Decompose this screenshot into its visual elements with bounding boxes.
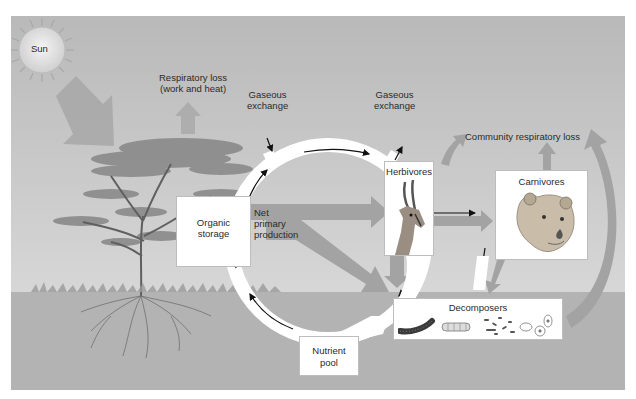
herbivore-respiration-arrow bbox=[441, 134, 467, 166]
gaseous-exchange-in-label: Gaseous exchange bbox=[247, 89, 288, 111]
respiratory-loss-arrow bbox=[175, 102, 201, 134]
carnivore-respiration-arrow bbox=[538, 142, 556, 172]
gazelle-icon bbox=[391, 180, 429, 255]
millipede-icon bbox=[400, 321, 432, 332]
larva-icon bbox=[442, 323, 470, 331]
solar-energy-arrow bbox=[56, 76, 114, 146]
ecosystem-diagram: Sun Respiratory loss (work and heat) Gas… bbox=[11, 16, 625, 390]
sun-label: Sun bbox=[31, 43, 48, 54]
fungi-cells-icon bbox=[520, 315, 552, 336]
net-primary-production-label: Net primary production bbox=[254, 207, 298, 240]
nutrient-pool-node: Nutrient pool bbox=[299, 336, 359, 376]
decomposers-node: Decomposers bbox=[393, 298, 563, 340]
carnivore-to-decomposers-flow-arrow bbox=[485, 260, 505, 294]
respiratory-loss-label: Respiratory loss (work and heat) bbox=[159, 72, 227, 94]
carnivores-node: Carnivores bbox=[495, 170, 588, 260]
lioness-icon bbox=[508, 189, 580, 257]
decomposer-organisms bbox=[398, 313, 560, 339]
bacteria-icon bbox=[484, 317, 515, 335]
community-respiratory-loss-label: Community respiratory loss bbox=[465, 131, 580, 142]
herbivores-node: Herbivores bbox=[384, 161, 434, 256]
organic-storage-node: Organic storage bbox=[176, 196, 251, 267]
gaseous-exchange-out-label: Gaseous exchange bbox=[374, 89, 415, 111]
